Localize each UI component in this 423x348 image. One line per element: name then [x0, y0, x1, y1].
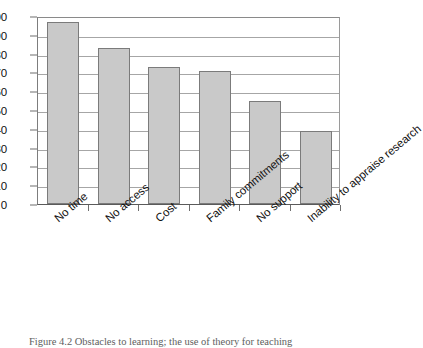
y-axis-tick-label: 0	[1, 199, 7, 211]
gridline	[38, 150, 339, 151]
bar	[148, 67, 180, 204]
bar	[199, 71, 231, 204]
y-axis-tick-label: 40	[0, 124, 7, 136]
y-axis-tick-label: 90	[0, 30, 7, 42]
x-axis-tick-mark	[189, 205, 190, 211]
y-axis-tick-mark	[30, 186, 37, 187]
x-axis-tick-mark	[290, 205, 291, 211]
y-axis-tick-mark	[30, 35, 37, 36]
y-axis-tick-label: 100	[0, 11, 7, 23]
y-axis-tick-mark	[30, 167, 37, 168]
y-axis-tick-mark	[30, 129, 37, 130]
y-axis-tick-label: 50	[0, 105, 7, 117]
y-axis-tick-mark	[30, 92, 37, 93]
gridline	[38, 112, 339, 113]
gridline	[38, 56, 339, 57]
x-axis-tick-mark	[138, 205, 139, 211]
y-axis-tick-mark	[30, 54, 37, 55]
x-axis-tick-mark	[340, 205, 341, 211]
x-axis-tick-mark	[239, 205, 240, 211]
y-axis-tick-mark	[30, 73, 37, 74]
y-axis-tick-label: 60	[0, 86, 7, 98]
y-axis-tick-label: 10	[0, 180, 7, 192]
gridline	[38, 168, 339, 169]
x-axis-tick-mark	[88, 205, 89, 211]
y-axis-tick-label: 30	[0, 143, 7, 155]
bar	[300, 131, 332, 204]
gridline	[38, 131, 339, 132]
bar	[98, 48, 130, 204]
figure-caption: Figure 4.2 Obstacles to learning; the us…	[29, 336, 351, 348]
gridline	[38, 93, 339, 94]
y-axis-tick-label: 20	[0, 161, 7, 173]
gridline	[38, 74, 339, 75]
y-axis-tick-mark	[30, 17, 37, 18]
y-axis-tick-mark	[30, 205, 37, 206]
plot-area	[37, 17, 340, 205]
bar	[47, 22, 79, 204]
gridline	[38, 37, 339, 38]
y-axis-tick-label: 80	[0, 49, 7, 61]
y-axis-tick-mark	[30, 148, 37, 149]
y-axis-tick-label: 70	[0, 67, 7, 79]
y-axis-tick-mark	[30, 111, 37, 112]
